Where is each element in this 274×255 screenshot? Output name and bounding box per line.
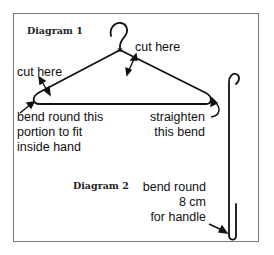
bend-label-line2: portion to fit (17, 125, 82, 139)
straighten-label-line2: this bend (150, 125, 205, 139)
straightened-wire-icon (229, 74, 239, 240)
diagram-2-title: Diagram 2 (73, 180, 129, 191)
handle-label-line3: for handle (140, 210, 206, 224)
handle-label-line2: 8 cm (140, 195, 206, 209)
straighten-label-line1: straighten (150, 110, 205, 124)
handle-label-line1: bend round (140, 180, 206, 194)
straighten-arrow-icon (211, 98, 219, 117)
bend-label-line3: inside hand (17, 140, 81, 154)
bend-label-line1: bend round this (17, 110, 103, 124)
cut-here-left-label: cut here (17, 65, 62, 79)
handle-arrow-icon (209, 224, 227, 233)
cut-arrow-top-icon (126, 54, 137, 75)
diagram-1-title: Diagram 1 (27, 25, 83, 36)
cut-here-top-label: cut here (135, 40, 180, 54)
